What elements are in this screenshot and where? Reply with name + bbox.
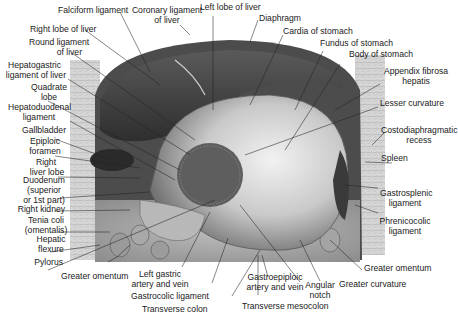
label-transverse-mesocolon: Transverse mesocolon [242, 302, 329, 312]
label-round-ligament-line2: of liver [29, 48, 82, 58]
label-phrenicocolic-line2: ligament [379, 227, 431, 237]
label-falciform-ligament: Falciform ligament [58, 6, 128, 16]
label-gastrosplenic-line2: ligament [380, 199, 430, 209]
label-greater-omentum-left: Greater omentum [61, 272, 128, 282]
label-hepatic-flexure-line2: flexure [35, 245, 67, 255]
label-body-of-stomach: Body of stomach [349, 50, 413, 60]
label-right-lobe-of-liver: Right lobe of liver [30, 25, 96, 35]
label-hepatogastric-line2: ligament of liver [5, 71, 66, 81]
label-lesser-curvature: Lesser curvature [380, 99, 444, 109]
label-diaphragm: Diaphragm [259, 14, 301, 24]
label-appendix-fibrosa-line2: hepatis [380, 77, 452, 87]
label-gastroepiploic-line2: artery and vein [246, 283, 304, 293]
label-left-gastric-line2: artery and vein [130, 280, 190, 290]
lesser-omentum [177, 143, 243, 207]
label-costodiaphragmatic-line2: recess [381, 136, 457, 146]
label-pylorus: Pylorus [30, 258, 63, 268]
label-greater-omentum-right: Greater omentum [364, 264, 431, 274]
label-epiploic-foramen-line2: foramen [25, 147, 65, 157]
label-transverse-colon: Transverse colon [142, 305, 208, 315]
label-gastrocolic-ligament: Gastrocolic ligament [131, 292, 209, 302]
label-right-kidney: Right kidney [12, 205, 65, 215]
label-gallbladder: Gallbladder [20, 126, 66, 136]
anatomy-figure: Falciform ligament Right lobe of liver R… [0, 0, 458, 323]
label-fundus-of-stomach: Fundus of stomach [320, 39, 393, 49]
label-hepatoduodenal-line2: ligament [8, 113, 70, 123]
label-coronary-ligament-line2: of liver [130, 16, 204, 26]
label-cardia-of-stomach: Cardia of stomach [283, 27, 353, 37]
label-spleen: Spleen [381, 154, 408, 164]
label-left-lobe-of-liver: Left lobe of liver [200, 3, 261, 13]
label-angular-notch-line2: notch [303, 291, 337, 301]
label-greater-curvature: Greater curvature [339, 280, 406, 290]
